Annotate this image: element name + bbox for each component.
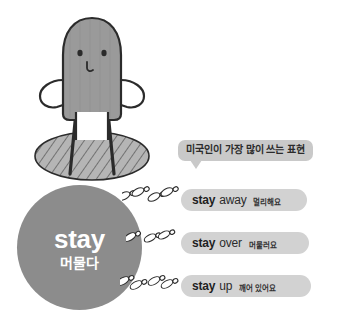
footprints-icon <box>122 186 180 210</box>
phrase-pill: stay up 깨어 있어요 <box>181 275 311 297</box>
phrase-korean: 멀리해요 <box>253 196 281 207</box>
phrase-particle: over <box>219 236 242 250</box>
speech-bubble-tail <box>190 160 202 169</box>
phrase-verb: stay <box>192 236 215 250</box>
blob-character <box>30 8 155 183</box>
character-body <box>63 18 121 140</box>
illustration-canvas: stay 머물다 미국인이 가장 많이 쓰는 표현 <box>0 0 340 324</box>
phrase-particle: up <box>219 279 232 293</box>
phrase-korean: 머물러요 <box>249 239 277 250</box>
footprints-icon <box>120 272 180 296</box>
phrase-pill: stay over 머물러요 <box>181 232 309 254</box>
phrase-korean: 깨어 있어요 <box>239 282 276 293</box>
footprints-icon-group <box>122 186 180 210</box>
word-circle-english: stay <box>54 226 105 252</box>
blob-character-svg <box>30 8 155 183</box>
footprints-icon <box>126 229 180 253</box>
word-circle-korean: 머물다 <box>60 256 99 270</box>
phrase-verb: stay <box>192 279 215 293</box>
headline-text: 미국인이 가장 많이 쓰는 표현 <box>186 144 305 155</box>
footprints-icon-group <box>126 229 180 253</box>
phrase-particle: away <box>219 193 246 207</box>
phrase-verb: stay <box>192 193 215 207</box>
phrase-pill: stay away 멀리해요 <box>181 189 307 211</box>
headline-speech-bubble: 미국인이 가장 많이 쓰는 표현 <box>178 140 313 161</box>
footprints-icon-group <box>120 272 180 296</box>
